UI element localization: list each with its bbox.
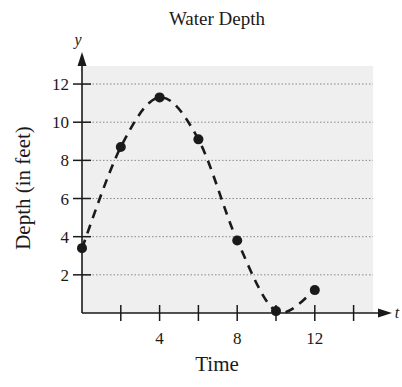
x-tick-label: 4: [155, 329, 164, 348]
y-tick-label: 12: [52, 75, 69, 94]
y-axis-arrow-icon: [78, 52, 87, 66]
y-tick-label: 2: [61, 266, 70, 285]
y-tick-label: 6: [61, 190, 70, 209]
chart-title: Water Depth: [169, 8, 266, 29]
y-tick-label: 10: [52, 113, 69, 132]
plot-area: [82, 66, 373, 313]
x-axis-label: Time: [195, 352, 239, 376]
y-tick-label: 4: [61, 228, 70, 247]
y-tick-label: 8: [61, 151, 70, 170]
data-point: [310, 285, 320, 295]
y-axis-variable: y: [72, 31, 82, 49]
x-axis-arrow-icon: [378, 309, 392, 318]
x-axis-variable: t: [395, 304, 400, 321]
data-point: [77, 243, 87, 253]
x-tick-label: 12: [306, 329, 323, 348]
water-depth-chart: 246810124812tyWater DepthTimeDepth (in f…: [0, 0, 402, 387]
data-point: [193, 134, 203, 144]
data-point: [155, 92, 165, 102]
y-axis-label: Depth (in feet): [11, 126, 35, 250]
data-point: [271, 306, 281, 316]
x-tick-label: 8: [233, 329, 242, 348]
data-point: [116, 142, 126, 152]
data-point: [232, 235, 242, 245]
